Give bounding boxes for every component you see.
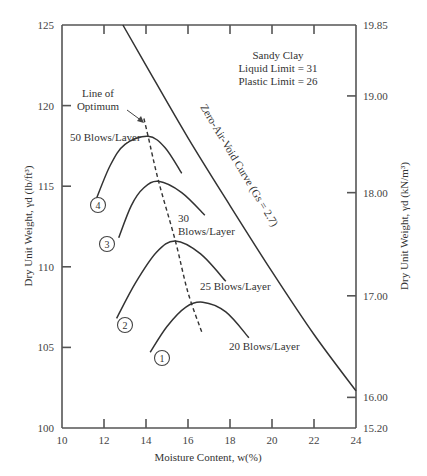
x-tick-label: 22 xyxy=(309,434,320,446)
x-tick-label: 20 xyxy=(267,434,279,446)
marker-2: 2 xyxy=(118,318,133,333)
y-right-tick-label: 19.00 xyxy=(363,90,388,102)
y-tick-label: 100 xyxy=(38,422,55,434)
y-tick-label: 120 xyxy=(38,100,55,112)
y-right-tick-label: 16.00 xyxy=(363,391,388,403)
svg-text:2: 2 xyxy=(123,320,128,331)
y-axis-ticks: 100105110115120125 xyxy=(38,19,72,434)
y-right-tick-label: 18.00 xyxy=(363,187,388,199)
annotation-line-1: Sandy Clay xyxy=(252,49,304,61)
optimum-label-line-2: Optimum xyxy=(77,100,120,112)
annotation-line-3: Plastic Limit = 26 xyxy=(238,75,318,87)
y-right-axis-ticks: 15.2016.0017.0018.0019.0019.85 xyxy=(347,19,388,434)
curve-50-blows-layer xyxy=(96,136,182,201)
y-right-axis-title: Dry Unit Weight, γd (kN/m³) xyxy=(398,162,411,290)
x-axis-title: Moisture Content, w(%) xyxy=(154,451,262,464)
label-30-blows-line-2: Blows/Layer xyxy=(178,225,235,237)
svg-text:4: 4 xyxy=(96,200,101,211)
x-tick-label: 12 xyxy=(99,434,110,446)
x-tick-label: 16 xyxy=(183,434,195,446)
svg-text:1: 1 xyxy=(160,353,165,364)
arrowhead-icon xyxy=(137,116,144,123)
x-tick-label: 24 xyxy=(351,434,363,446)
y-tick-label: 105 xyxy=(38,341,55,353)
y-right-tick-label: 17.00 xyxy=(363,290,388,302)
compaction-chart: 1012141618202224 100105110115120125 15.2… xyxy=(0,0,427,476)
annotation-line-2: Liquid Limit = 31 xyxy=(238,62,317,74)
x-tick-label: 14 xyxy=(141,434,153,446)
marker-4: 4 xyxy=(91,198,106,213)
label-25-blows: 25 Blows/Layer xyxy=(200,280,271,292)
label-30-blows-line-1: 30 xyxy=(178,212,190,224)
label-50-blows: 50 Blows/Layer xyxy=(70,131,141,143)
x-tick-label: 10 xyxy=(57,434,69,446)
label-zav-curve: Zero-Air-Void Curve (Gs = 2.7) xyxy=(197,102,281,229)
y-tick-label: 115 xyxy=(38,180,55,192)
marker-3: 3 xyxy=(100,237,115,252)
y-right-tick-label: 19.85 xyxy=(363,19,388,31)
soil-annotation: Sandy Clay Liquid Limit = 31 Plastic Lim… xyxy=(238,49,318,87)
y-right-tick-label: 15.20 xyxy=(363,422,388,434)
label-20-blows: 20 Blows/Layer xyxy=(229,340,300,352)
optimum-label: Line of Optimum xyxy=(77,87,144,123)
y-tick-label: 110 xyxy=(38,261,55,273)
y-tick-label: 125 xyxy=(38,19,55,31)
svg-text:3: 3 xyxy=(105,239,110,250)
x-tick-label: 18 xyxy=(225,434,237,446)
y-axis-title: Dry Unit Weight, γd (lb/ft³) xyxy=(22,165,35,286)
optimum-label-line-1: Line of xyxy=(82,87,114,99)
marker-1: 1 xyxy=(155,351,170,366)
